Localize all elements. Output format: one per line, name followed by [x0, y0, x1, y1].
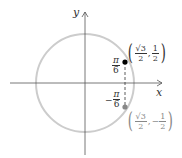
- y-axis-label: y: [73, 6, 79, 19]
- coord-label-lower: ( √32 , − 12 ): [126, 110, 175, 132]
- angle-label-lower: − π 6: [105, 90, 120, 109]
- x-axis-label: x: [156, 86, 162, 99]
- coord-label-upper: ( √32 , 12 ): [126, 42, 167, 64]
- unit-circle-diagram: [0, 0, 182, 158]
- angle-label-upper: π 6: [112, 56, 120, 75]
